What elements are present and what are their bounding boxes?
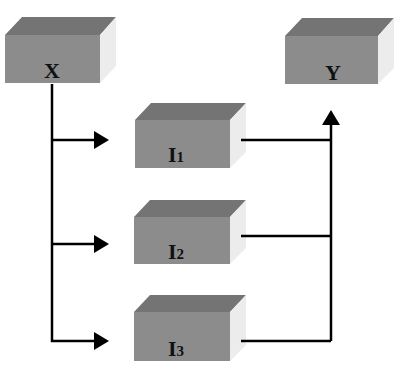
arrowheads-to-intermediates xyxy=(94,131,109,350)
edges-from-x xyxy=(52,84,96,341)
node-i1: I1 xyxy=(135,103,246,168)
node-x-label: X xyxy=(44,58,60,83)
arrow-icon xyxy=(94,332,109,350)
arrow-up-icon xyxy=(322,110,340,125)
node-i2: I2 xyxy=(134,200,246,264)
node-x: X xyxy=(5,17,116,83)
arrow-icon xyxy=(94,131,109,149)
arrow-icon xyxy=(94,235,109,253)
node-y: Y xyxy=(285,18,394,85)
edges-to-y xyxy=(241,122,331,341)
diagram-canvas: X Y I1 I2 I3 xyxy=(0,0,403,372)
node-i3: I3 xyxy=(134,295,246,361)
node-y-label: Y xyxy=(325,60,341,85)
